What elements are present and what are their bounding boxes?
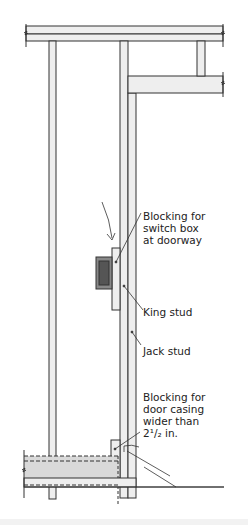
left-stud [49, 41, 56, 499]
bottom-bar [0, 519, 248, 525]
framing-diagram: Blocking for switch box at doorway King … [0, 0, 248, 525]
label-casing-blocking: Blocking for door casing wider than 2¹/₂… [143, 391, 205, 439]
top-plate-upper [26, 26, 223, 34]
label-switch-box-blocking: Blocking for switch box at doorway [143, 210, 205, 246]
top-plate-lower [26, 34, 223, 41]
bottom-plate [24, 478, 136, 487]
king-stud [120, 41, 128, 498]
framing-drawing [0, 0, 248, 525]
label-king-stud: King stud [143, 306, 192, 318]
cripple-stud [197, 41, 205, 76]
subfloor [24, 456, 119, 478]
header [128, 76, 223, 93]
label-jack-stud: Jack stud [143, 345, 191, 357]
